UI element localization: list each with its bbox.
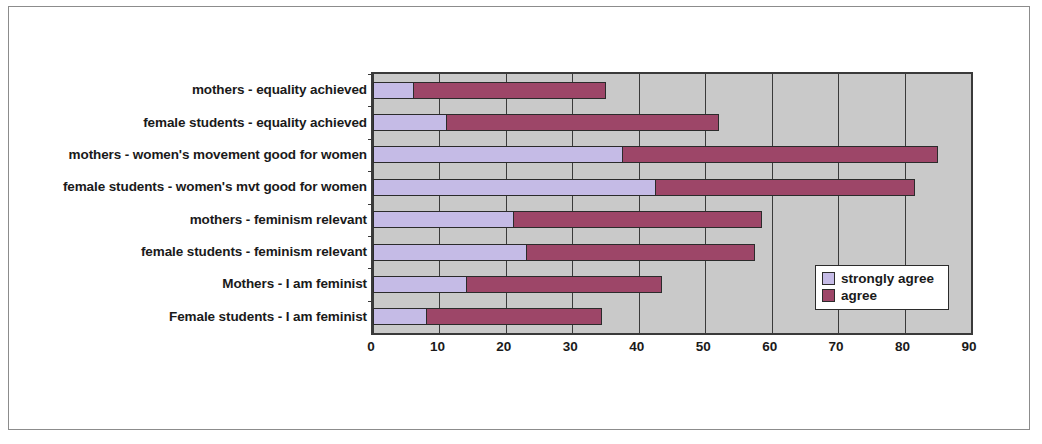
y-axis-tick [368,106,373,107]
x-tick-label-80: 80 [895,339,910,354]
y-axis-tick [368,204,373,205]
screenshot-page: mothers - equality achievedfemale studen… [0,0,1042,444]
gridline-40 [639,74,640,333]
category-label: Mothers - I am feminist [29,277,367,291]
bar-segment-agree [446,114,718,131]
bar-group [373,308,602,325]
bar-group [373,146,938,163]
gridline-10 [439,74,440,333]
x-tick-label-90: 90 [961,339,976,354]
chart-legend: strongly agreeagree [815,265,949,310]
bar-segment-strongly-agree [373,211,513,228]
gridline-60 [772,74,773,333]
bar-segment-strongly-agree [373,114,446,131]
category-axis-labels: mothers - equality achievedfemale studen… [29,72,367,335]
gridline-0 [373,74,374,333]
legend-label: agree [841,288,877,303]
bar-segment-agree [622,146,938,163]
bar-segment-strongly-agree [373,276,466,293]
bar-segment-agree [466,276,662,293]
y-axis-tick [368,301,373,302]
figure-frame: mothers - equality achievedfemale studen… [8,6,1030,430]
x-tick-label-40: 40 [629,339,644,354]
x-tick-label-70: 70 [829,339,844,354]
category-label: mothers - equality achieved [29,83,367,97]
gridline-50 [705,74,706,333]
bar-segment-agree [513,211,762,228]
x-tick-label-60: 60 [762,339,777,354]
bar-group [373,276,662,293]
category-label: mothers - feminism relevant [29,213,367,227]
gridline-90 [971,74,972,333]
category-label: Female students - I am feminist [29,310,367,324]
bar-segment-strongly-agree [373,308,426,325]
y-axis-tick [368,268,373,269]
y-axis-tick [368,74,373,75]
bar-group [373,82,606,99]
bar-group [373,114,719,131]
category-label: female students - women's mvt good for w… [29,180,367,194]
y-axis-tick [368,236,373,237]
stacked-bar-chart: mothers - equality achievedfemale studen… [9,7,1031,431]
legend-swatch-icon [822,289,835,302]
bar-segment-strongly-agree [373,146,622,163]
x-tick-label-50: 50 [696,339,711,354]
bar-segment-strongly-agree [373,82,413,99]
bar-segment-strongly-agree [373,244,526,261]
bar-group [373,244,755,261]
value-axis-labels: 0102030405060708090 [371,339,973,363]
x-tick-label-10: 10 [430,339,445,354]
legend-swatch-icon [822,272,835,285]
category-label: female students - equality achieved [29,116,367,130]
y-axis-tick [368,139,373,140]
legend-item: agree [822,287,942,304]
bar-group [373,211,762,228]
bar-segment-strongly-agree [373,179,655,196]
x-tick-label-0: 0 [367,339,375,354]
bar-segment-agree [426,308,602,325]
category-label: female students - feminism relevant [29,245,367,259]
category-label: mothers - women's movement good for wome… [29,148,367,162]
legend-item: strongly agree [822,270,942,287]
gridline-30 [572,74,573,333]
gridline-20 [506,74,507,333]
legend-label: strongly agree [841,271,934,286]
bar-segment-agree [413,82,606,99]
x-tick-label-20: 20 [496,339,511,354]
bar-segment-agree [526,244,755,261]
y-axis-tick [368,171,373,172]
bar-group [373,179,915,196]
bar-segment-agree [655,179,914,196]
x-tick-label-30: 30 [563,339,578,354]
